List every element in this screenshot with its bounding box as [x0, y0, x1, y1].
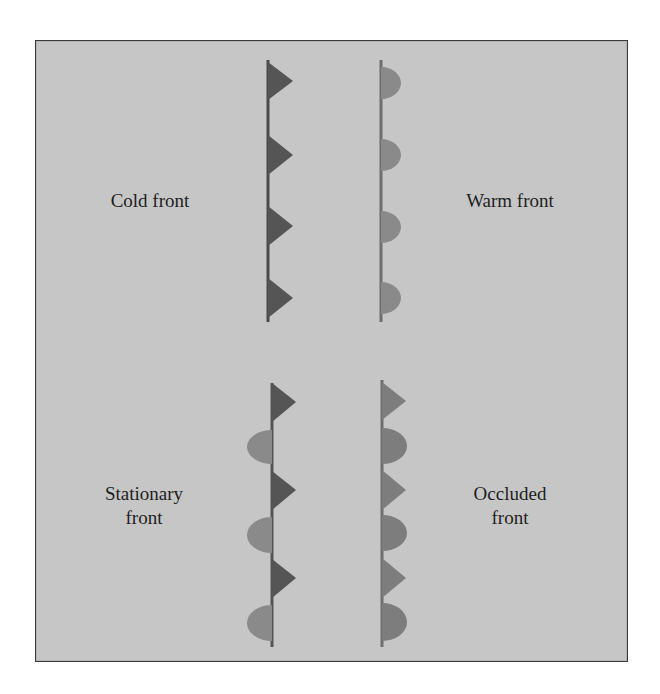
- stationary-front-label: Stationary front: [84, 482, 204, 530]
- cold-triangle-icon: [268, 62, 293, 100]
- stationary-semicircle-icon: [247, 430, 272, 464]
- cold-front-label-text: Cold front: [111, 190, 190, 211]
- cold-front-symbol: [268, 60, 293, 322]
- occluded-front-label-line1: Occluded: [450, 482, 570, 506]
- warm-semicircle-icon: [381, 211, 401, 243]
- warm-semicircle-icon: [381, 139, 401, 171]
- cold-triangle-icon: [268, 278, 293, 318]
- stationary-front-label-line2: front: [84, 506, 204, 530]
- stationary-front-label-line1: Stationary: [84, 482, 204, 506]
- stationary-triangle-icon: [272, 471, 296, 510]
- warm-front-label-text: Warm front: [466, 190, 554, 211]
- occluded-front-label: Occluded front: [450, 482, 570, 530]
- warm-front-symbol: [381, 60, 401, 322]
- stationary-semicircle-icon: [247, 517, 272, 553]
- occluded-triangle-icon: [382, 382, 406, 420]
- occluded-front-symbol: [382, 380, 407, 647]
- warm-front-label: Warm front: [440, 189, 580, 213]
- cold-triangle-icon: [268, 135, 293, 175]
- stationary-triangle-icon: [272, 559, 296, 598]
- occluded-semicircle-icon: [382, 515, 407, 551]
- fronts-canvas: [0, 0, 660, 694]
- stationary-triangle-icon: [272, 383, 296, 422]
- occluded-triangle-icon: [382, 470, 406, 510]
- occluded-front-label-line2: front: [450, 506, 570, 530]
- cold-triangle-icon: [268, 206, 293, 246]
- occluded-semicircle-icon: [382, 428, 407, 464]
- occluded-semicircle-icon: [382, 603, 407, 641]
- warm-semicircle-icon: [381, 282, 401, 314]
- cold-front-label: Cold front: [80, 189, 220, 213]
- occluded-triangle-icon: [382, 558, 406, 598]
- stationary-front-symbol: [247, 383, 296, 647]
- stationary-semicircle-icon: [247, 605, 272, 641]
